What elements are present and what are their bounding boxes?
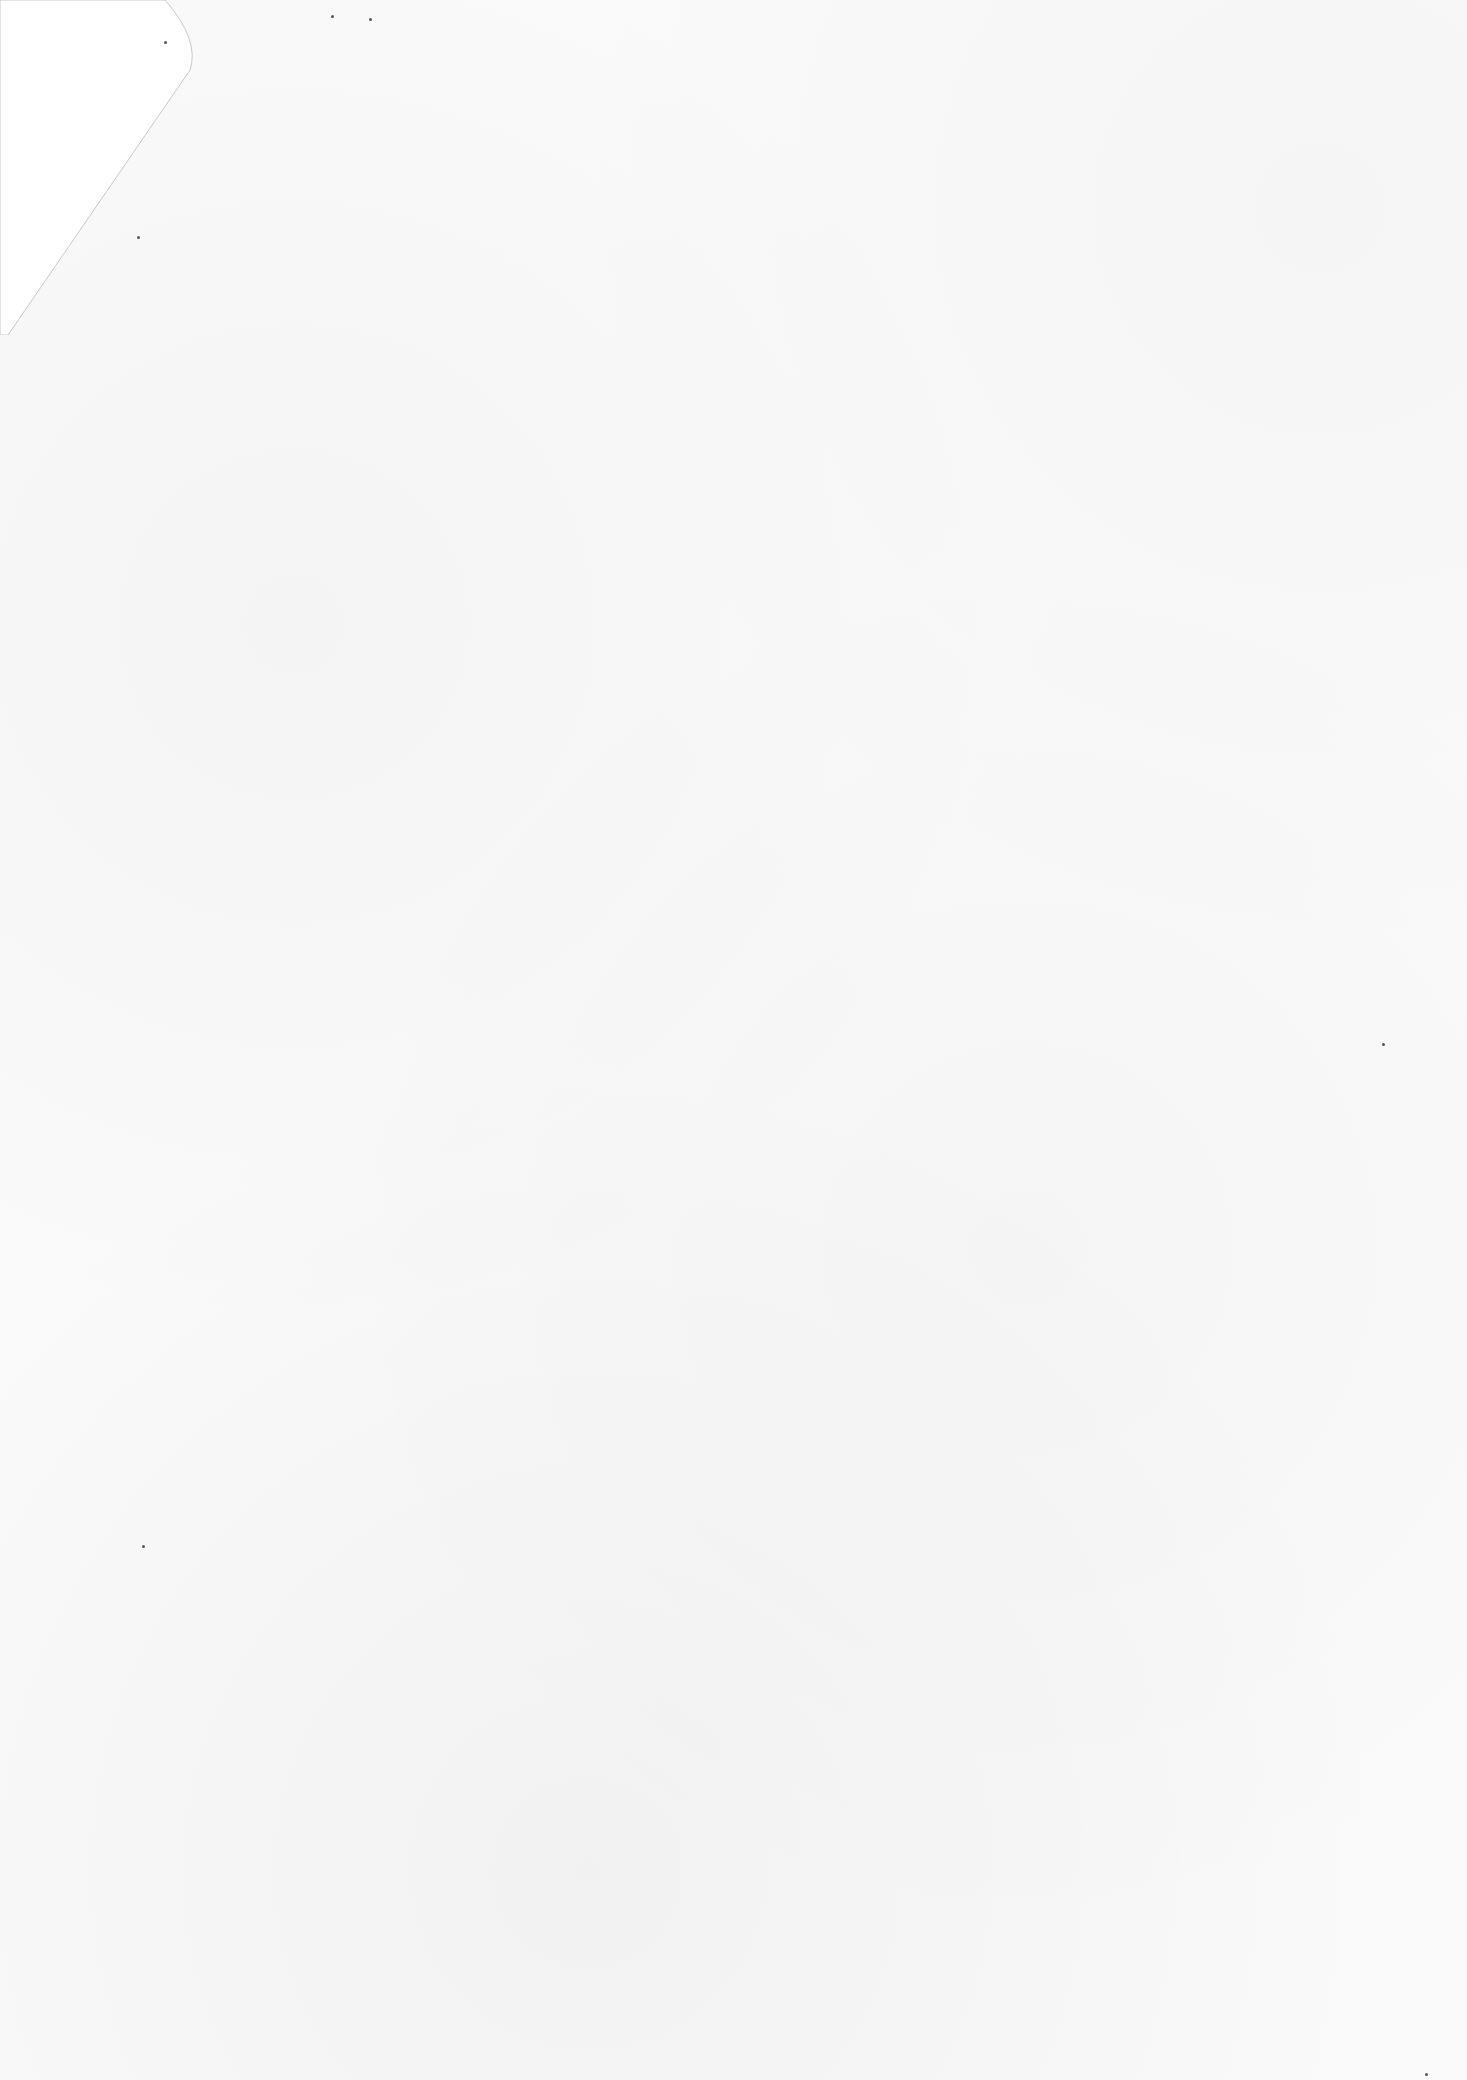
scan-speck	[331, 15, 334, 18]
blank-page	[0, 0, 1467, 2080]
scan-speck	[369, 18, 372, 21]
scan-speck	[137, 236, 140, 239]
scan-speck	[142, 1545, 145, 1548]
folded-corner	[0, 0, 200, 335]
scan-speck	[164, 41, 167, 44]
scan-speck	[1382, 1043, 1385, 1046]
scan-speck	[1425, 2073, 1428, 2076]
